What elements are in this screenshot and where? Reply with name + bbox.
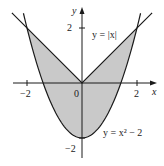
region-figure: y x −2 2 0 2 −2 y = |x| y = x² − 2: [0, 0, 164, 166]
x-axis-arrow-icon: [150, 81, 157, 86]
y-tick-label-neg2: −2: [65, 143, 76, 154]
y-axis-arrow-icon: [80, 7, 85, 14]
x-tick-label-2: 2: [134, 88, 139, 99]
x-tick-label-neg2: −2: [20, 88, 31, 99]
y-tick-label-2: 2: [67, 22, 72, 33]
x-axis-label: x: [151, 86, 157, 97]
origin-label: 0: [74, 88, 79, 99]
label-parabola: y = x² − 2: [103, 127, 142, 138]
label-abs-x: y = |x|: [92, 29, 117, 40]
y-axis-label: y: [71, 5, 77, 16]
